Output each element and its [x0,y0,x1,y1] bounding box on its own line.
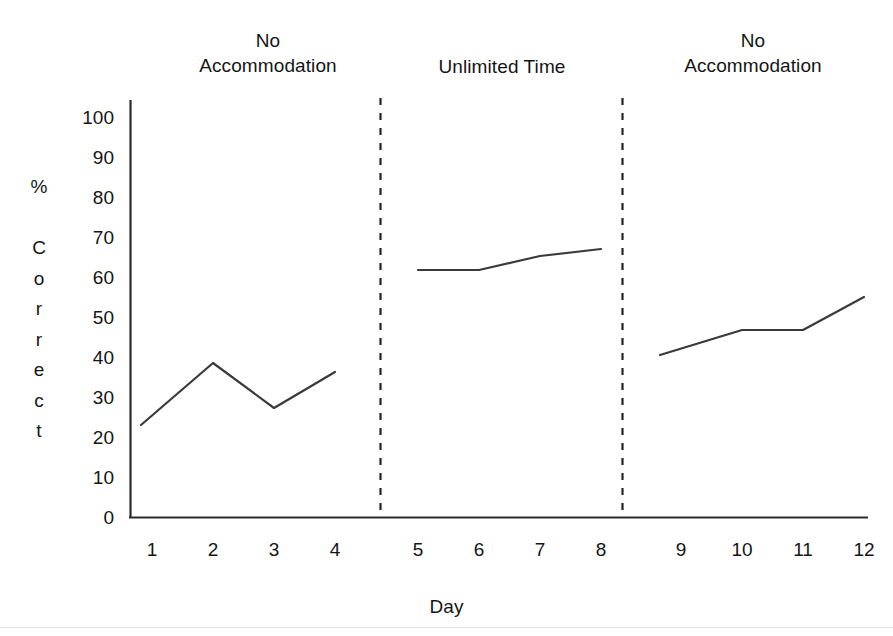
data-line-phase-2 [418,249,601,270]
data-line-phase-1 [141,363,335,425]
x-axis-title: Day [0,596,893,618]
data-line-phase-3 [660,297,864,355]
page-edge-artifact [0,627,893,628]
single-subject-line-graph: No Accommodation Unlimited Time No Accom… [0,0,893,636]
plot-area [0,0,893,636]
